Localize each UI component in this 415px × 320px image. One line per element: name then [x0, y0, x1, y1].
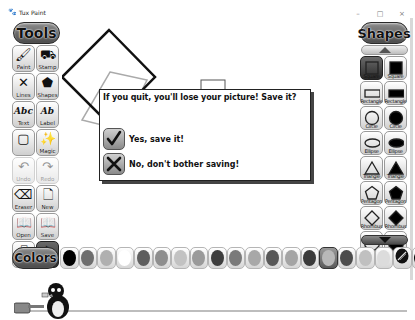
tool-open-button[interactable]: 📖Open [12, 213, 35, 240]
shape-rhombus-outline-button[interactable]: Rhombus [360, 206, 383, 230]
shape-square-filled-button[interactable]: Square [384, 56, 407, 80]
tux-penguin-icon [14, 279, 74, 320]
tool-magic-button[interactable]: ✨Magic [36, 129, 59, 156]
colors-header: Colors [12, 247, 59, 269]
shape-triangle-outline-button[interactable]: Triangle [360, 156, 383, 180]
color-swatch[interactable] [97, 247, 116, 269]
shape-square-outline-button[interactable]: Square [360, 56, 383, 80]
shape-rectangle-filled-button[interactable]: Rectangle [384, 81, 407, 105]
maximize-button[interactable]: □ [375, 10, 385, 18]
shape-triangle-filled-button[interactable]: Triangle [384, 156, 407, 180]
ellipse-outline-icon [364, 135, 380, 155]
tool-undo-button[interactable]: ↶Undo [12, 157, 35, 184]
tool-fill-button[interactable]: ▢ [12, 129, 35, 156]
color-dot [211, 250, 224, 266]
yes-save-button[interactable]: Yes, save it! [103, 128, 184, 150]
shape-rectangle-outline-button[interactable]: Rectangle [360, 81, 383, 105]
color-swatch[interactable] [245, 247, 264, 269]
color-palette [60, 247, 415, 269]
shape-ellipse-filled-button[interactable]: Ellipse [384, 131, 407, 155]
title-bar: 🐾 Tux Paint – □ × [0, 0, 415, 22]
open-book-icon: 📖 [16, 216, 32, 230]
arrow-up-icon [379, 47, 391, 53]
stamp-icon: ⛟ [40, 48, 56, 62]
x-mark-icon [103, 153, 125, 175]
tool-redo-button[interactable]: ↷Redo [36, 157, 59, 184]
shapes-scroll-up-button[interactable] [361, 45, 408, 55]
shape-circle-outline-button[interactable]: Circle [360, 106, 383, 130]
color-swatch[interactable] [301, 247, 320, 269]
circle-filled-icon [388, 110, 404, 130]
tool-new-button[interactable]: 🗋New [36, 185, 59, 212]
color-dot [285, 250, 298, 266]
tool-stamp-button[interactable]: ⛟Stamp [36, 45, 59, 72]
tool-lines-button[interactable]: ✕Lines [12, 73, 35, 100]
triangle-outline-icon [364, 160, 380, 180]
color-swatch[interactable] [319, 247, 338, 269]
ellipse-filled-icon [388, 135, 404, 155]
color-swatch[interactable] [375, 247, 394, 269]
magic-wand-icon: ✨ [40, 132, 56, 146]
color-swatch[interactable] [208, 247, 227, 269]
tool-eraser-button[interactable]: ⌫Eraser [12, 185, 35, 212]
tool-shapes-button[interactable]: ⬟Shapes [36, 73, 59, 100]
redo-icon: ↷ [42, 160, 53, 174]
tool-text-button[interactable]: AbcText [12, 101, 35, 128]
color-swatch[interactable] [282, 247, 301, 269]
color-swatch[interactable] [79, 247, 98, 269]
color-dot [81, 250, 94, 266]
app-title: 🐾 Tux Paint [8, 8, 46, 16]
close-button[interactable]: × [397, 10, 407, 18]
tool-label-button[interactable]: AbLabel [36, 101, 59, 128]
tool-label: Magic [39, 148, 55, 154]
text-icon: Abc [14, 104, 33, 118]
pentagon-outline-icon [364, 185, 380, 205]
rectangle-outline-icon [364, 85, 380, 105]
minimize-button[interactable]: – [353, 10, 363, 18]
paintbrush-icon: 🖌 [15, 48, 32, 62]
color-swatch[interactable] [412, 247, 415, 269]
rhombus-outline-icon [364, 210, 380, 230]
save-book-icon: 📖 [40, 216, 56, 230]
color-dot [377, 250, 390, 266]
color-swatch[interactable] [264, 247, 283, 269]
color-swatch[interactable] [338, 247, 357, 269]
color-swatch[interactable] [227, 247, 246, 269]
shape-ellipse-outline-button[interactable]: Ellipse [360, 131, 383, 155]
shape-circle-filled-button[interactable]: Circle [384, 106, 407, 130]
tool-paint-button[interactable]: 🖌Paint [12, 45, 35, 72]
color-dot [100, 250, 113, 266]
color-picker-icon [395, 248, 409, 268]
shape-rhombus-filled-button[interactable]: Rhombus [384, 206, 407, 230]
new-page-icon: 🗋 [43, 188, 53, 202]
color-picker-swatch[interactable] [393, 247, 412, 269]
window-controls: – □ × [353, 10, 407, 18]
color-swatch[interactable] [356, 247, 375, 269]
color-swatch[interactable] [116, 247, 135, 269]
color-dot [118, 250, 131, 266]
tool-label: Shapes [37, 92, 57, 98]
shape-pentagon-filled-button[interactable]: Pentagon [384, 181, 407, 205]
quit-confirm-dialog: If you quit, you'll lose your picture! S… [99, 89, 311, 181]
window-scrollbar[interactable] [410, 18, 413, 280]
rhombus-filled-icon [388, 210, 404, 230]
tool-label: Paint [17, 64, 31, 70]
color-swatch[interactable] [190, 247, 209, 269]
fill-icon: ▢ [17, 132, 29, 146]
color-dot [63, 250, 76, 266]
color-swatch[interactable] [153, 247, 172, 269]
arrow-down-icon [379, 237, 391, 243]
color-swatch[interactable] [60, 247, 79, 269]
shape-pentagon-outline-button[interactable]: Pentagon [360, 181, 383, 205]
no-dont-save-button[interactable]: No, don't bother saving! [103, 153, 239, 175]
tool-label: Save [41, 232, 55, 238]
color-dot [192, 250, 205, 266]
color-swatch[interactable] [134, 247, 153, 269]
color-dot [174, 250, 187, 266]
eraser-icon: ⌫ [14, 188, 32, 202]
color-dot [266, 250, 279, 266]
color-swatch[interactable] [171, 247, 190, 269]
shapes-scroll-down-button[interactable] [361, 235, 408, 245]
tool-save-button[interactable]: 📖Save [36, 213, 59, 240]
dialog-message: If you quit, you'll lose your picture! S… [103, 93, 296, 102]
